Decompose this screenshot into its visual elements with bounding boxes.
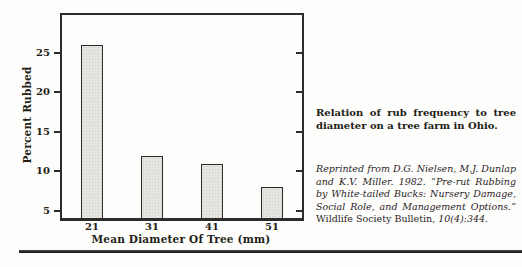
y-tick-5 (54, 210, 60, 212)
citation-italic-lead: Reprinted from D.G. Nielsen, M.J. Dunlap… (316, 163, 516, 212)
y-tick-right-10 (296, 170, 302, 172)
y-tick-right-25 (296, 52, 302, 54)
y-tick-15 (54, 131, 60, 133)
y-tick-label-15: 15 (28, 126, 50, 138)
bar-41 (201, 164, 223, 219)
bottom-rule (19, 250, 522, 253)
y-tick-label-20: 20 (28, 86, 50, 98)
bar-31 (141, 156, 163, 218)
y-tick-right-15 (296, 131, 302, 133)
citation-volume-pages: 10(4):344. (438, 213, 488, 224)
x-tick-label-41: 41 (194, 221, 230, 232)
caption-block: Relation of rub frequency to tree diamet… (316, 106, 516, 226)
bar-chart-plot-area: 51015202521314151 (60, 13, 304, 221)
figure-page: Percent Rubbed 51015202521314151 Mean Di… (0, 0, 522, 267)
x-tick-label-31: 31 (134, 221, 170, 232)
y-tick-right-20 (296, 91, 302, 93)
figure-caption: Relation of rub frequency to tree diamet… (316, 106, 516, 132)
y-tick-label-25: 25 (28, 47, 50, 59)
y-tick-right-5 (296, 210, 302, 212)
y-tick-10 (54, 170, 60, 172)
figure-citation: Reprinted from D.G. Nielsen, M.J. Dunlap… (316, 163, 516, 226)
bar-21 (81, 45, 103, 218)
bar-51 (261, 187, 283, 218)
y-axis-label: Percent Rubbed (21, 67, 33, 164)
y-tick-label-10: 10 (28, 165, 50, 177)
citation-journal-name: Wildlife Society Bulletin, (316, 213, 438, 224)
y-tick-20 (54, 91, 60, 93)
y-tick-label-5: 5 (28, 205, 50, 217)
x-axis-label: Mean Diameter Of Tree (mm) (91, 233, 270, 245)
x-tick-label-51: 51 (254, 221, 290, 232)
y-tick-25 (54, 52, 60, 54)
x-tick-label-21: 21 (74, 221, 110, 232)
